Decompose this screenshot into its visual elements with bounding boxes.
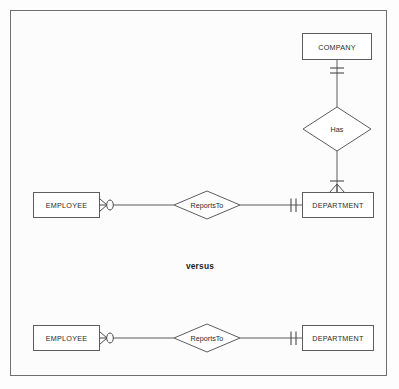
entity-company[interactable]: COMPANY xyxy=(303,34,372,60)
er-diagram: COMPANY Has DEPARTMENT EMPLOYEE xyxy=(0,0,399,389)
diagram-canvas: COMPANY Has DEPARTMENT EMPLOYEE xyxy=(0,0,399,389)
entity-department-bottom-label: DEPARTMENT xyxy=(312,334,364,343)
entity-department-top[interactable]: DEPARTMENT xyxy=(303,193,374,218)
entity-department-top-label: DEPARTMENT xyxy=(312,201,364,210)
cardinality-zero-or-many-employee-top xyxy=(100,199,114,212)
entity-employee-top-label: EMPLOYEE xyxy=(46,201,88,210)
entity-employee-top[interactable]: EMPLOYEE xyxy=(34,193,100,218)
relationship-reportsto-top-label: ReportsTo xyxy=(191,201,224,210)
entity-employee-bottom[interactable]: EMPLOYEE xyxy=(34,326,100,351)
versus-label: versus xyxy=(186,261,214,271)
relationship-reportsto-top[interactable]: ReportsTo xyxy=(174,191,240,219)
relationship-has-label: Has xyxy=(331,125,344,134)
entity-company-label: COMPANY xyxy=(318,43,356,52)
relationship-reportsto-bottom[interactable]: ReportsTo xyxy=(174,324,240,352)
cardinality-zero-or-many-employee-bottom xyxy=(100,332,114,345)
entity-department-bottom[interactable]: DEPARTMENT xyxy=(303,326,374,351)
entity-employee-bottom-label: EMPLOYEE xyxy=(46,334,88,343)
relationship-has[interactable]: Has xyxy=(303,107,371,151)
relationship-reportsto-bottom-label: ReportsTo xyxy=(191,334,224,343)
